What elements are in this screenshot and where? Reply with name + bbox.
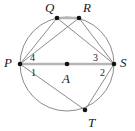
angle-4-label: 4 [30,53,35,63]
angle-1-label: 1 [31,68,36,78]
point-label-S: S [120,56,127,69]
vertex-point-T [83,108,88,113]
vertex-point-R [77,16,82,21]
chord-QS [57,18,114,64]
vertex-point-S [112,62,117,67]
chord-PR [20,18,79,64]
point-label-A: A [62,72,70,85]
point-label-Q: Q [45,1,54,14]
point-label-R: R [83,1,91,14]
vertex-point-A [65,62,70,67]
angle-2-label: 2 [100,68,105,78]
point-label-P: P [4,56,12,69]
point-label-T: T [88,116,95,129]
angle-3-label: 3 [93,53,98,63]
geometry-canvas [0,0,135,131]
chord-PT [20,64,85,110]
vertex-point-Q [55,16,60,21]
vertex-point-P [18,62,23,67]
geometry-figure: PQRSTA4132 [0,0,135,131]
